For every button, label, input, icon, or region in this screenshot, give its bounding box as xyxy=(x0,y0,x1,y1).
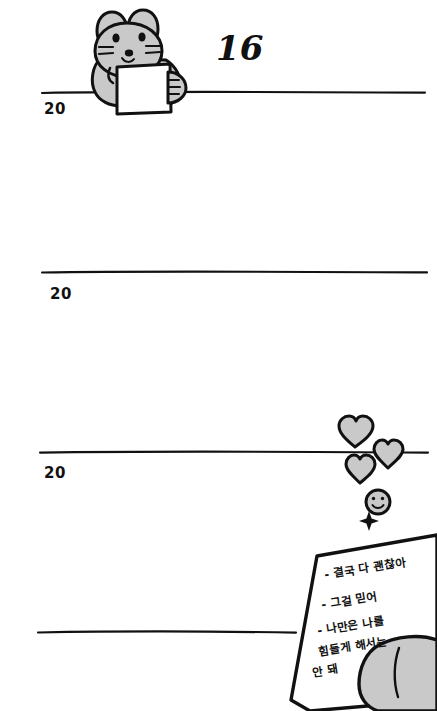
day-number: 16 xyxy=(216,28,263,68)
year-label-2: 20 xyxy=(50,285,72,303)
year-label-1: 20 xyxy=(44,100,66,118)
journal-page: 20 20 20 16 - 결국 다 괜찮아 - 그걸 믿어 - 나만은 나를 … xyxy=(0,0,437,711)
year-label-3: 20 xyxy=(44,464,66,482)
